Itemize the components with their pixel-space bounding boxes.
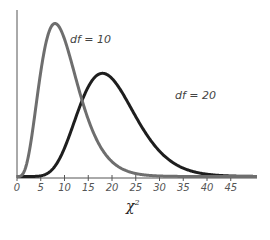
x-tick-label: 5 xyxy=(38,182,44,193)
x-axis-label: χ2 xyxy=(126,198,140,214)
df-20-label: df = 20 xyxy=(175,89,216,102)
curve-df-10 xyxy=(17,24,257,177)
x-tick-label: 25 xyxy=(129,182,142,193)
x-tick-label: 30 xyxy=(153,182,166,193)
curve-df-20 xyxy=(17,73,257,176)
df-10-label: df = 10 xyxy=(70,33,111,46)
x-tick-label: 0 xyxy=(14,182,20,193)
x-tick-label: 10 xyxy=(58,182,71,193)
x-tick-label: 45 xyxy=(224,182,237,193)
x-tick-label: 35 xyxy=(177,182,190,193)
x-tick-label: 15 xyxy=(82,182,95,193)
x-tick-label: 40 xyxy=(201,182,214,193)
x-tick-label: 20 xyxy=(106,182,119,193)
